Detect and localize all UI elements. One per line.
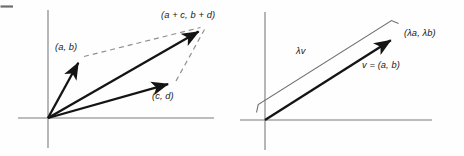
label-vector-ab: (a, b) xyxy=(55,42,77,52)
label-vector-cd: (c, d) xyxy=(152,91,174,101)
parallelogram-edge-top xyxy=(84,28,201,57)
vector-addition-panel xyxy=(18,10,214,148)
vector-diagram-figure: (a + c, b + d) (a, b) (c, d) (λa, λb) λv… xyxy=(0,0,464,156)
vector-v-arrow xyxy=(265,40,391,120)
vector-cd-arrow xyxy=(48,84,168,118)
label-scaled-point: (λa, λb) xyxy=(404,28,436,38)
diagram-canvas xyxy=(0,0,464,156)
label-sum-vector: (a + c, b + d) xyxy=(161,10,215,20)
label-base-vector: v = (a, b) xyxy=(362,60,400,70)
label-scaled-vector: λv xyxy=(296,46,305,56)
